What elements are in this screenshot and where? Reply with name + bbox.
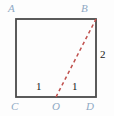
- geometry-figure: A B C D O 1 1 2: [0, 0, 114, 116]
- vertex-label-a: A: [8, 3, 15, 14]
- measure-label-od: 1: [72, 81, 78, 92]
- point-label-o: O: [52, 101, 60, 112]
- vertex-label-d: D: [86, 101, 94, 112]
- vertex-label-b: B: [81, 3, 88, 14]
- measure-label-bd: 2: [100, 49, 106, 60]
- vertex-label-c: C: [11, 101, 18, 112]
- square-abdc: [16, 19, 96, 97]
- measure-label-co: 1: [36, 81, 42, 92]
- figure-canvas: [0, 0, 114, 116]
